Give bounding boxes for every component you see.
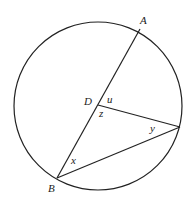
chord-ab bbox=[57, 29, 140, 178]
angle-label-u: u bbox=[107, 93, 113, 105]
angle-label-x: x bbox=[70, 154, 76, 166]
label-d: D bbox=[83, 95, 92, 107]
label-a: A bbox=[139, 14, 147, 26]
chord-bc bbox=[57, 127, 180, 178]
label-b: B bbox=[48, 182, 55, 194]
angle-label-z: z bbox=[98, 107, 104, 119]
circle bbox=[14, 22, 182, 190]
segment-dc bbox=[98, 105, 180, 127]
geometry-diagram: A D B u z y x bbox=[0, 0, 192, 203]
angle-label-y: y bbox=[149, 122, 155, 134]
